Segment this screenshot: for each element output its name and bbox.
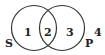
set-s-label: S (5, 37, 13, 50)
region-3-label: 3 (66, 26, 74, 39)
region-4-label: 4 (94, 26, 102, 39)
set-p-label: P (85, 37, 93, 50)
region-1-label: 1 (24, 26, 32, 39)
venn-diagram: 1 2 3 4 S P (0, 0, 105, 55)
region-2-label: 2 (44, 26, 52, 39)
